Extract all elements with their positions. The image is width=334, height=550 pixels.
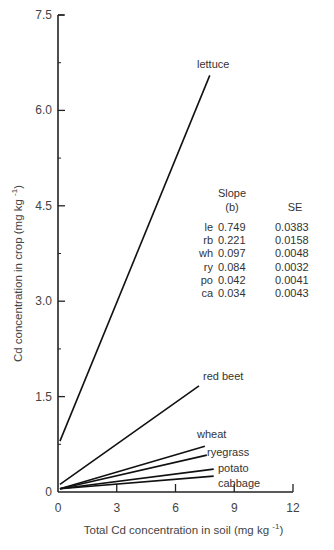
table-cell-se: 0.0158	[275, 234, 309, 246]
table-cell-se: 0.0043	[275, 287, 309, 299]
series-label-potato: potato	[218, 462, 249, 474]
x-tick-label: 0	[55, 501, 62, 515]
table-cell-se: 0.0383	[275, 221, 309, 233]
y-tick-label: 0	[45, 485, 52, 499]
table-cell-crop: wh	[198, 247, 213, 259]
table-cell-crop: po	[201, 274, 213, 286]
table-cell-crop: rb	[203, 234, 213, 246]
table-cell-slope: 0.221	[218, 234, 246, 246]
table-header-slope: Slope	[218, 187, 246, 199]
series-line-lettuce	[60, 75, 210, 441]
table-header-se: SE	[288, 201, 303, 213]
series-line-potato	[60, 469, 214, 489]
chart: 01.53.04.56.07.5036912Total Cd concentra…	[0, 0, 334, 550]
x-tick-label: 9	[231, 501, 238, 515]
table-cell-slope: 0.097	[218, 247, 246, 259]
y-tick-label: 4.5	[35, 199, 52, 213]
table-header-slope-b: (b)	[225, 201, 238, 213]
table-cell-crop: ry	[204, 261, 214, 273]
y-tick-label: 7.5	[35, 8, 52, 22]
table-cell-se: 0.0032	[275, 261, 309, 273]
x-tick-label: 12	[286, 501, 300, 515]
table-cell-slope: 0.034	[218, 287, 246, 299]
series-label-cabbage: cabbage	[218, 477, 260, 489]
x-tick-label: 3	[113, 501, 120, 515]
x-axis-title: Total Cd concentration in soil (mg kg -1…	[84, 522, 284, 536]
y-axis-title: Cd concentration in crop (mg kg -1)	[10, 185, 24, 362]
y-tick-label: 3.0	[35, 294, 52, 308]
y-tick-label: 6.0	[35, 103, 52, 117]
series-label-lettuce: lettuce	[197, 58, 229, 70]
series-label-wheat: wheat	[196, 428, 226, 440]
table-cell-slope: 0.042	[218, 274, 246, 286]
series-label-ryegrass: ryegrass	[207, 446, 250, 458]
table-cell-crop: le	[204, 221, 213, 233]
series-line-red-beet	[60, 386, 199, 485]
x-tick-label: 6	[172, 501, 179, 515]
y-tick-label: 1.5	[35, 390, 52, 404]
series-line-ryegrass	[60, 455, 207, 489]
table-cell-se: 0.0041	[275, 274, 309, 286]
table-cell-slope: 0.084	[218, 261, 246, 273]
table-cell-se: 0.0048	[275, 247, 309, 259]
series-label-red-beet: red beet	[203, 370, 243, 382]
table-cell-crop: ca	[201, 287, 214, 299]
table-cell-slope: 0.749	[218, 221, 246, 233]
